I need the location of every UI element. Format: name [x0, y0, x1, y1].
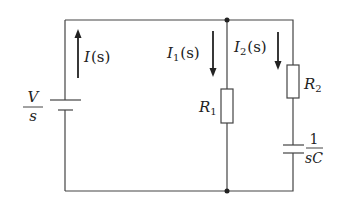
current-label-branch2: I2(s) — [233, 38, 267, 57]
resistor-label-r1: R1 — [198, 98, 217, 117]
resistor-label-r2: R2 — [303, 75, 322, 94]
current-arrow-branch1 — [210, 31, 217, 77]
junction-bottom — [225, 189, 230, 194]
current-arrow-branch2 — [275, 32, 282, 70]
current-label-branch1: I1(s) — [166, 44, 200, 63]
capacitor-label-numerator: 1 — [310, 131, 319, 147]
resistor-r2 — [287, 65, 299, 98]
current-label-total: I(s) — [83, 48, 110, 66]
source-label-numerator: V — [28, 88, 41, 106]
wire-bottom — [65, 153, 293, 191]
circuit-diagram: I(s) I1(s) I2(s) R1 R2 V s 1 sC — [0, 0, 347, 201]
junction-top — [225, 18, 230, 23]
resistor-r1 — [221, 89, 233, 123]
capacitor-label-denominator: sC — [305, 150, 323, 166]
current-arrow-total — [75, 29, 82, 78]
source-label-denominator: s — [29, 107, 37, 125]
